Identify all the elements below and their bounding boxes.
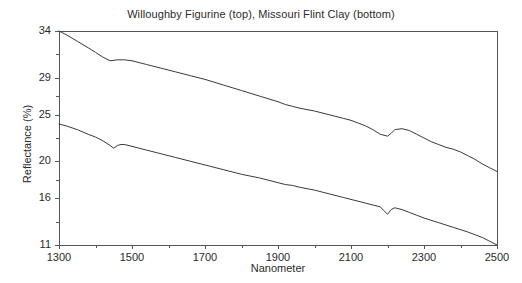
x-tick-label: 2100 <box>331 251 371 263</box>
x-tick-label: 1900 <box>258 251 298 263</box>
y-tick-label: 20 <box>23 154 51 166</box>
x-tick-label: 1700 <box>185 251 225 263</box>
y-tick-label: 25 <box>23 108 51 120</box>
axis-frame <box>59 31 497 245</box>
tick-marks <box>55 32 498 250</box>
y-tick-label: 16 <box>23 191 51 203</box>
x-tick-label: 1500 <box>112 251 152 263</box>
plot-area <box>0 0 522 283</box>
series-line-0 <box>59 31 497 172</box>
y-tick-label: 29 <box>23 71 51 83</box>
x-tick-label: 2300 <box>404 251 444 263</box>
reflectance-spectra-chart: Willoughby Figurine (top), Missouri Flin… <box>0 0 522 283</box>
series-lines <box>59 31 497 245</box>
y-tick-label: 11 <box>23 238 51 250</box>
x-tick-label: 2500 <box>477 251 517 263</box>
x-tick-label: 1300 <box>39 251 79 263</box>
y-tick-label: 34 <box>23 24 51 36</box>
